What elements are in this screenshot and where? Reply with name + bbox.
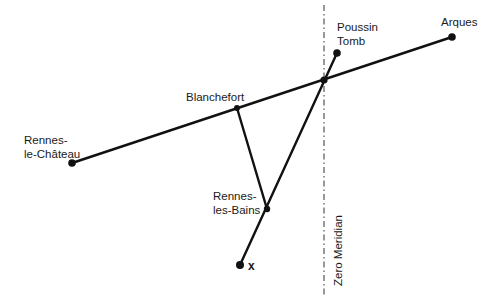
point-poussin-tomb: [333, 49, 341, 57]
label-poussin-tomb-line2: Tomb: [337, 35, 365, 47]
point-rennes-le-chateau: [68, 159, 76, 167]
label-x: x: [248, 259, 255, 273]
line-rennes-le-chateau-to-arques: [72, 37, 452, 163]
diagram-canvas: Rennes- le-Château Blanchefort Rennes- l…: [0, 0, 503, 301]
point-rennes-les-bains: [264, 206, 270, 212]
label-zero-meridian: Zero Meridian: [332, 215, 344, 286]
point-x: [236, 261, 244, 269]
label-rennes-les-bains-line2: les-Bains: [213, 204, 261, 216]
label-rennes-le-chateau-line2: le-Château: [24, 148, 80, 160]
label-rennes-les-bains-line1: Rennes-: [213, 190, 257, 202]
point-intersection: [320, 76, 327, 83]
label-poussin-tomb-line1: Poussin: [337, 21, 378, 33]
label-blanchefort: Blanchefort: [186, 91, 245, 103]
point-arques: [448, 33, 456, 41]
point-blanchefort: [234, 105, 240, 111]
line-x-to-poussin-tomb: [240, 53, 337, 265]
label-arques: Arques: [441, 16, 478, 28]
label-rennes-le-chateau-line1: Rennes-: [24, 134, 68, 146]
